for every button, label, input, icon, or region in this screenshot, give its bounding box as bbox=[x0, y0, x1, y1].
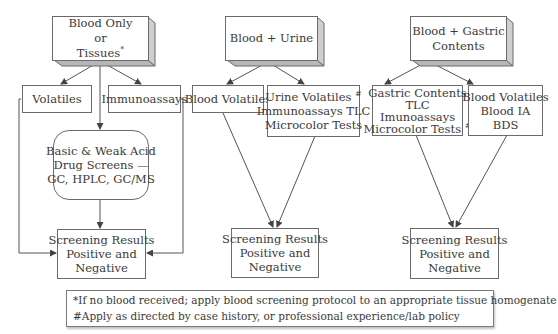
branch-line: Blood IA bbox=[481, 104, 531, 118]
source-line: Contents bbox=[432, 39, 485, 54]
branch-gastric-tests: Gastric Contents TLC Imunoassays Microco… bbox=[372, 85, 463, 136]
flowchart-canvas: Blood Only or Tissues* Volatiles Immunoa… bbox=[0, 0, 558, 334]
source-blood-only: Blood Only or Tissues* bbox=[52, 16, 156, 68]
branch-line: BDS bbox=[493, 118, 519, 132]
source-line: Blood + Urine bbox=[230, 31, 313, 46]
result-line: Screening Results bbox=[402, 233, 508, 247]
result-line: Negative bbox=[75, 261, 128, 275]
branch-line: Immunoassays TLC bbox=[257, 104, 371, 118]
footnote-hash: #Apply as directed by case history, or p… bbox=[73, 308, 487, 324]
branch-line: Microcolor Tests bbox=[265, 118, 362, 132]
branch-line: Microcolor Tests # bbox=[364, 123, 472, 135]
result-line: Screening Results bbox=[49, 233, 155, 247]
branch-line: Basic & Weak Acid bbox=[46, 144, 156, 158]
source-line: Tissues* bbox=[77, 46, 124, 61]
result-line: Positive and bbox=[240, 246, 311, 260]
branch-line: Drug Screens — bbox=[53, 158, 148, 172]
branch-line: Urine Volatiles # bbox=[265, 90, 362, 104]
branch-immunoassays: Immunoassays bbox=[108, 85, 181, 113]
source-blood-gastric: Blood + Gastric Contents bbox=[410, 16, 514, 68]
result-box-col2: Screening Results Positive and Negative bbox=[231, 228, 319, 278]
result-box-col3: Screening Results Positive and Negative bbox=[410, 228, 499, 279]
branch-line: GC, HPLC, GC/MS bbox=[47, 172, 155, 186]
branch-line: Gastric Contents bbox=[368, 87, 466, 99]
hash-mark: # bbox=[355, 89, 362, 98]
result-line: Negative bbox=[249, 260, 302, 274]
branch-label: Volatiles bbox=[32, 92, 81, 106]
branch-label: Immunoassays bbox=[102, 92, 188, 106]
result-box-col1: Screening Results Positive and Negative bbox=[57, 229, 146, 279]
asterisk-mark: * bbox=[120, 45, 124, 54]
result-line: Screening Results bbox=[222, 232, 328, 246]
result-line: Positive and bbox=[66, 247, 137, 261]
branch-line: TLC bbox=[405, 99, 429, 111]
result-line: Negative bbox=[428, 261, 481, 275]
branch-line: Blood Volatiles bbox=[462, 90, 548, 104]
source-line: Blood Only bbox=[68, 16, 132, 31]
branch-drug-screens: Basic & Weak Acid Drug Screens — GC, HPL… bbox=[53, 130, 149, 200]
branch-urine-tests: Urine Volatiles # Immunoassays TLC Micro… bbox=[267, 85, 360, 137]
source-line: Blood + Gastric bbox=[412, 24, 504, 39]
result-line: Positive and bbox=[419, 247, 490, 261]
footnote-legend: *If no blood received; apply blood scree… bbox=[66, 290, 494, 327]
branch-volatiles: Volatiles bbox=[22, 85, 92, 113]
source-blood-urine: Blood + Urine bbox=[225, 16, 325, 68]
branch-blood-volatiles: Blood Volatiles bbox=[192, 85, 264, 113]
branch-blood-tests: Blood Volatiles Blood IA BDS bbox=[468, 85, 543, 136]
footnote-asterisk: *If no blood received; apply blood scree… bbox=[73, 292, 487, 308]
source-line: or bbox=[94, 31, 106, 46]
